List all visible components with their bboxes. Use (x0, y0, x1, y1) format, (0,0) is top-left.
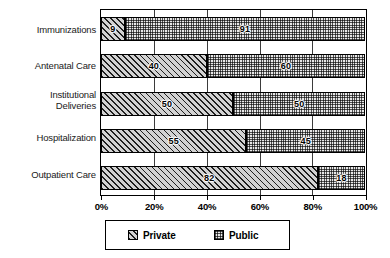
bar-segment-public[interactable]: 91 (125, 17, 365, 41)
y-axis-label-line1: Institutional (0, 89, 96, 100)
legend: Private Public (105, 220, 290, 250)
x-axis-tick-label: 100% (346, 201, 386, 212)
bar-value-label-private: 9 (110, 24, 115, 34)
x-axis-tick-100 (366, 196, 367, 200)
bar-segment-private[interactable]: 9 (101, 17, 125, 41)
y-axis-label-line1: Immunizations (37, 24, 96, 35)
bar-segment-public[interactable]: 60 (207, 54, 366, 78)
x-axis-tick-label: 0% (81, 201, 121, 212)
y-axis-label-antenatal-care: Antenatal Care (0, 60, 96, 71)
bar-row: 991 (101, 17, 366, 41)
y-axis-label-line1: Outpatient Care (31, 169, 96, 180)
bar-row: 5545 (101, 129, 366, 153)
y-axis-label-institutional-deliveries: Institutional Deliveries (0, 89, 96, 111)
bar-segment-public[interactable]: 18 (318, 166, 366, 190)
bar-row: 5050 (101, 92, 366, 116)
bar-value-label-public: 50 (294, 99, 304, 109)
bar-value-label-public: 91 (240, 24, 250, 34)
bar-value-label-public: 45 (301, 136, 311, 146)
bar-value-label-private: 55 (168, 136, 178, 146)
legend-swatch-private-icon (128, 230, 138, 240)
legend-label-public: Public (229, 230, 258, 241)
bar-segment-private[interactable]: 82 (101, 166, 318, 190)
bar-segment-private[interactable]: 55 (101, 129, 246, 153)
y-axis-label-hospitalization: Hospitalization (0, 132, 96, 143)
stacked-bar-chart: Immunizations Antenatal Care Institution… (0, 0, 390, 258)
bar-row: 8218 (101, 166, 366, 190)
y-axis-label-line1: Antenatal Care (35, 60, 96, 71)
y-axis-label-outpatient-care: Outpatient Care (0, 169, 96, 180)
x-axis-tick-label: 40% (187, 201, 227, 212)
legend-item-public[interactable]: Public (214, 230, 258, 241)
x-axis-tick-60 (260, 196, 261, 200)
x-axis-tick-label: 80% (293, 201, 333, 212)
y-axis-category-labels: Immunizations Antenatal Care Institution… (0, 8, 96, 196)
bar-segment-public[interactable]: 50 (233, 92, 365, 116)
x-axis-tick-0 (101, 196, 102, 200)
bar-value-label-private: 82 (204, 173, 214, 183)
x-axis-tick-label: 20% (134, 201, 174, 212)
x-axis-tick-40 (207, 196, 208, 200)
bar-value-label-private: 40 (149, 61, 159, 71)
x-axis-tick-80 (313, 196, 314, 200)
bar-value-label-private: 50 (162, 99, 172, 109)
plot-area: 9914060505055458218 (100, 9, 367, 196)
bar-segment-private[interactable]: 40 (101, 54, 207, 78)
legend-item-private[interactable]: Private (128, 230, 176, 241)
y-axis-label-immunizations: Immunizations (0, 24, 96, 35)
y-axis-label-line2: Deliveries (0, 100, 96, 111)
bar-value-label-public: 18 (336, 173, 346, 183)
x-axis-tick-label: 60% (240, 201, 280, 212)
bar-row: 4060 (101, 54, 366, 78)
legend-swatch-public-icon (214, 230, 224, 240)
y-axis-label-line1: Hospitalization (36, 132, 96, 143)
bar-value-label-public: 60 (281, 61, 291, 71)
x-axis: 0%20%40%60%80%100% (100, 196, 367, 220)
x-axis-tick-20 (154, 196, 155, 200)
bar-segment-public[interactable]: 45 (246, 129, 365, 153)
bar-segment-private[interactable]: 50 (101, 92, 233, 116)
legend-label-private: Private (143, 230, 176, 241)
bar-series-container: 9914060505055458218 (101, 10, 366, 195)
